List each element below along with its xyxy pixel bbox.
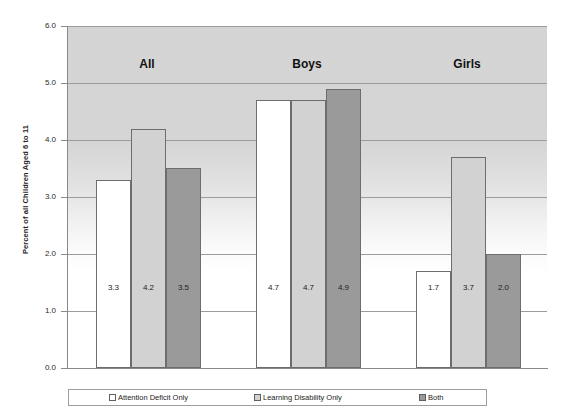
bar-chart: Percent of all Children Aged 6 to 11 3.3… bbox=[0, 0, 562, 420]
bar-value-label: 3.7 bbox=[451, 283, 486, 292]
legend-item[interactable]: Learning Disability Only bbox=[254, 393, 342, 402]
y-tick-label: 6.0 bbox=[12, 21, 56, 30]
bar-value-label: 2.0 bbox=[486, 283, 521, 292]
bar-value-label: 4.2 bbox=[131, 283, 166, 292]
bar-value-label: 4.7 bbox=[291, 283, 326, 292]
legend-label: Both bbox=[428, 393, 443, 402]
legend-item[interactable]: Attention Deficit Only bbox=[109, 393, 188, 402]
chart-title bbox=[0, 0, 562, 4]
y-axis-title: Percent of all Children Aged 6 to 11 bbox=[21, 90, 30, 290]
plot-area: 3.34.23.54.74.74.91.73.72.0 bbox=[67, 26, 547, 368]
y-tick-mark bbox=[61, 83, 67, 84]
y-tick-mark bbox=[61, 254, 67, 255]
legend-swatch-icon bbox=[254, 394, 261, 401]
group-label-all: All bbox=[97, 57, 197, 71]
legend-swatch-icon bbox=[419, 394, 426, 401]
bar bbox=[96, 180, 131, 368]
group-label-boys: Boys bbox=[257, 57, 357, 71]
bar bbox=[256, 100, 291, 368]
y-tick-label: 5.0 bbox=[12, 78, 56, 87]
legend-swatch-icon bbox=[109, 394, 116, 401]
bar-value-label: 3.3 bbox=[96, 283, 131, 292]
bar bbox=[291, 100, 326, 368]
legend-item[interactable]: Both bbox=[419, 393, 443, 402]
y-tick-label: 3.0 bbox=[12, 192, 56, 201]
legend-label: Learning Disability Only bbox=[263, 393, 342, 402]
legend: Attention Deficit OnlyLearning Disabilit… bbox=[68, 389, 487, 406]
bar bbox=[326, 89, 361, 368]
x-axis-line bbox=[67, 368, 548, 369]
y-tick-mark bbox=[61, 140, 67, 141]
y-tick-mark bbox=[61, 26, 67, 27]
bar-value-label: 1.7 bbox=[416, 283, 451, 292]
y-tick-label: 0.0 bbox=[12, 363, 56, 372]
y-tick-mark bbox=[61, 368, 67, 369]
bar-value-label: 4.9 bbox=[326, 283, 361, 292]
y-tick-label: 4.0 bbox=[12, 135, 56, 144]
y-tick-label: 1.0 bbox=[12, 306, 56, 315]
gridline bbox=[68, 83, 547, 84]
y-tick-label: 2.0 bbox=[12, 249, 56, 258]
bar-value-label: 4.7 bbox=[256, 283, 291, 292]
bar-value-label: 3.5 bbox=[166, 283, 201, 292]
bar bbox=[131, 129, 166, 368]
bar bbox=[486, 254, 521, 368]
bar bbox=[166, 168, 201, 368]
y-tick-mark bbox=[61, 197, 67, 198]
group-label-girls: Girls bbox=[417, 57, 517, 71]
bar bbox=[451, 157, 486, 368]
plot-top-border bbox=[68, 26, 547, 27]
legend-label: Attention Deficit Only bbox=[118, 393, 188, 402]
y-tick-mark bbox=[61, 311, 67, 312]
